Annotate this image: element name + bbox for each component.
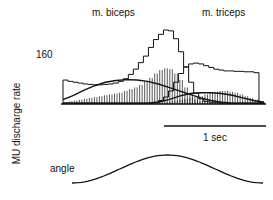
- step-outline: [63, 63, 264, 104]
- angle-trace: [72, 155, 263, 183]
- histogram-plot: [0, 0, 273, 200]
- step-outline: [63, 30, 264, 104]
